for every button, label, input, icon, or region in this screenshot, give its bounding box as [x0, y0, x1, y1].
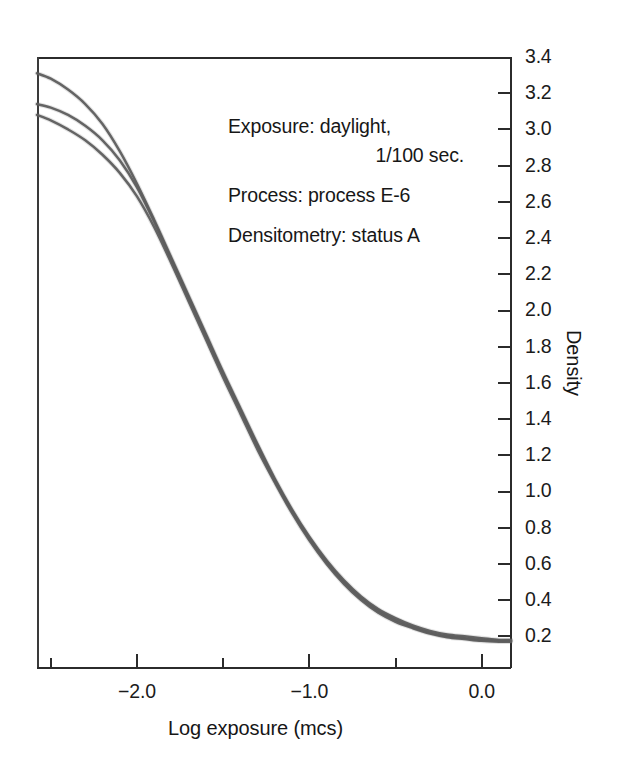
y-tick-label: 1.4	[525, 409, 552, 429]
y-tick-label: 1.6	[525, 373, 552, 393]
x-tick-label: −2.0	[118, 682, 156, 702]
y-tick-label: 3.4	[525, 47, 552, 67]
y-axis-title: Density	[562, 330, 585, 396]
annotation-exposure: Exposure: daylight,	[228, 112, 464, 141]
y-tick-label: 1.0	[525, 481, 552, 501]
y-tick-label: 0.2	[525, 626, 552, 646]
y-tick-label: 0.6	[525, 554, 552, 574]
annotation-spacer-2	[228, 210, 464, 221]
y-tick-label: 3.2	[525, 83, 552, 103]
y-tick-label: 2.2	[525, 264, 552, 284]
x-axis-ticks	[51, 654, 482, 668]
y-axis-ticks	[498, 93, 511, 636]
y-tick-label: 2.6	[525, 192, 552, 212]
y-tick-label: 0.8	[525, 518, 552, 538]
annotation-spacer	[228, 170, 464, 181]
y-tick-label: 3.0	[525, 119, 552, 139]
annotation-process: Process: process E-6	[228, 181, 464, 210]
x-tick-label: −1.0	[290, 682, 328, 702]
y-tick-label: 1.2	[525, 445, 552, 465]
characteristic-curve-figure: 3.43.23.02.82.62.42.22.01.81.61.41.21.00…	[0, 0, 641, 781]
annotation-block: Exposure: daylight, 1/100 sec. Process: …	[228, 112, 464, 250]
x-tick-label: 0.0	[468, 682, 495, 702]
annotation-densitometry: Densitometry: status A	[228, 221, 464, 250]
y-tick-label: 2.4	[525, 228, 552, 248]
y-tick-label: 1.8	[525, 337, 552, 357]
y-tick-label: 2.8	[525, 156, 552, 176]
y-tick-label: 0.4	[525, 590, 552, 610]
x-axis-title: Log exposure (mcs)	[0, 717, 511, 740]
y-tick-label: 2.0	[525, 300, 552, 320]
annotation-exposure-time: 1/100 sec.	[228, 141, 464, 170]
